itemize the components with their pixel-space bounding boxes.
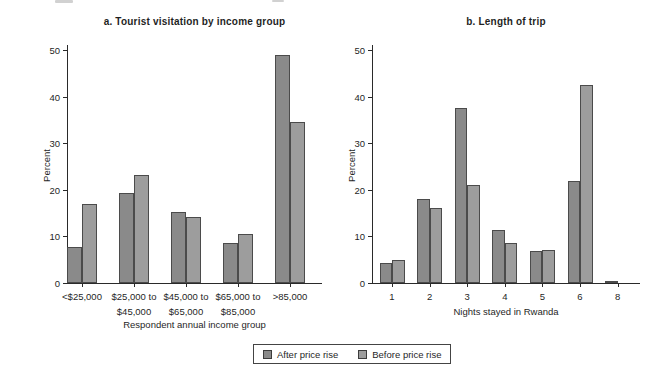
x-tick-mark bbox=[392, 284, 393, 287]
panel-b-x-axis-label: Nights stayed in Rwanda bbox=[372, 306, 640, 317]
y-tick-label: 50 bbox=[340, 45, 365, 56]
x-tick-mark bbox=[467, 284, 468, 287]
x-tick-mark bbox=[542, 284, 543, 287]
y-tick-mark bbox=[368, 143, 372, 144]
y-tick-mark bbox=[368, 190, 372, 191]
legend-label-after: After price rise bbox=[277, 349, 338, 360]
bar-before-3 bbox=[467, 185, 480, 283]
y-tick-label: 10 bbox=[340, 231, 365, 242]
bar-after-1 bbox=[380, 263, 393, 283]
figure-tourism-price-rise-charts: a. Tourist visitation by income group010… bbox=[0, 0, 653, 376]
x-category-label-line: 8 bbox=[584, 289, 652, 304]
y-tick-label: 0 bbox=[340, 278, 365, 289]
bar-before-1 bbox=[392, 260, 405, 283]
legend: After price rise Before price rise bbox=[253, 344, 451, 364]
bar-after-2 bbox=[417, 199, 430, 283]
bar-after-4 bbox=[492, 230, 505, 283]
panel-b-title: b. Length of trip bbox=[372, 16, 640, 27]
y-tick-mark bbox=[368, 236, 372, 237]
panel-b-length-of-trip: b. Length of trip01020304050Percent12345… bbox=[0, 0, 653, 376]
legend-item-after-price-rise: After price rise bbox=[263, 349, 338, 360]
y-tick-mark bbox=[368, 50, 372, 51]
bar-after-8 bbox=[605, 281, 618, 283]
panel-b-y-axis-label: Percent bbox=[346, 146, 357, 186]
y-tick-mark bbox=[368, 97, 372, 98]
legend-item-before-price-rise: Before price rise bbox=[358, 349, 441, 360]
y-tick-label: 20 bbox=[340, 185, 365, 196]
y-tick-label: 40 bbox=[340, 92, 365, 103]
before-price-rise-swatch bbox=[358, 350, 367, 359]
x-tick-mark bbox=[430, 284, 431, 287]
x-category-label: 8 bbox=[584, 289, 652, 304]
x-tick-mark bbox=[580, 284, 581, 287]
panel-b-x-axis bbox=[372, 283, 640, 284]
panel-b-y-axis bbox=[372, 45, 373, 284]
legend-label-before: Before price rise bbox=[372, 349, 441, 360]
x-tick-mark bbox=[618, 284, 619, 287]
bar-after-6 bbox=[568, 181, 581, 283]
bar-after-5 bbox=[530, 251, 543, 283]
bar-before-2 bbox=[430, 208, 443, 283]
bar-before-5 bbox=[542, 250, 555, 283]
bar-before-4 bbox=[505, 243, 518, 283]
bar-before-6 bbox=[580, 85, 593, 283]
y-tick-mark bbox=[368, 283, 372, 284]
after-price-rise-swatch bbox=[263, 350, 272, 359]
bar-after-3 bbox=[455, 108, 468, 283]
x-tick-mark bbox=[505, 284, 506, 287]
